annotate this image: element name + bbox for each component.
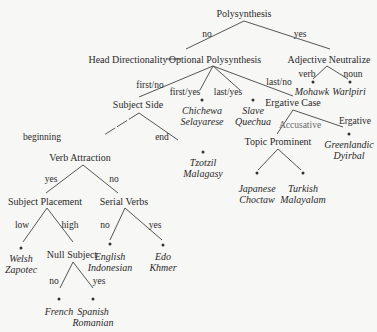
- edge-label-serial-yes: yes: [149, 220, 162, 230]
- edge-label-opt-first-no: first/no: [136, 80, 163, 90]
- node-polysynthesis: Polysynthesis: [216, 8, 271, 19]
- edge-label-serial-no: no: [100, 220, 110, 230]
- leaf-dot: [109, 243, 112, 246]
- leaf-dot: [162, 244, 165, 247]
- leaf-dot: [302, 172, 305, 175]
- leaf-dot: [312, 81, 315, 84]
- leaf-dot: [348, 133, 351, 136]
- edge-label-poly-no: no: [202, 29, 212, 39]
- edge-label-null-no: no: [49, 276, 59, 286]
- edge-label-adj-noun: noun: [344, 69, 363, 79]
- edge-label-opt-first-yes: first/yes: [170, 87, 201, 97]
- edge-label-null-yes: yes: [93, 276, 106, 286]
- leaf-dot: [252, 99, 255, 102]
- node-serial-verbs: Serial Verbs: [100, 196, 148, 207]
- node-head-directionality: Head Directionality: [88, 54, 167, 65]
- leaf-tzotzil-malagasy: TzotzilMalagasy: [183, 157, 222, 179]
- leaf-dot: [349, 81, 352, 84]
- leaf-warlpiri: Warlpiri: [332, 86, 366, 97]
- edge-label-place-low: low: [15, 220, 29, 230]
- leaf-edo-khmer: EdoKhmer: [149, 251, 176, 273]
- leaf-greenlandic-dyirbal: GreenlandicDyirbal: [324, 139, 374, 161]
- leaf-slave-quechua: SlaveQuechua: [235, 105, 271, 127]
- node-subject-placement: Subject Placement: [8, 196, 82, 207]
- leaf-mohawk: Mohawk: [295, 86, 329, 97]
- edge-label-opt-last-no: last/no: [266, 77, 291, 87]
- leaf-french: French: [45, 306, 74, 317]
- edge-label-poly-yes: yes: [294, 29, 307, 39]
- leaf-dot: [92, 298, 95, 301]
- leaf-dot: [256, 172, 259, 175]
- leaf-welsh-zapotec: WelshZapotec: [5, 253, 37, 275]
- leaf-dot: [201, 99, 204, 102]
- leaf-dot: [20, 247, 23, 250]
- edge-label-verb-no: no: [109, 174, 119, 184]
- leaf-japanese-choctaw: JapaneseChoctaw: [238, 183, 275, 205]
- edge-label-adj-verb: verb: [299, 69, 316, 79]
- edge-label-place-high: high: [62, 220, 79, 230]
- node-adjective-neutralize: Adjective Neutralize: [287, 54, 370, 65]
- leaf-english-indonesian: EnglishIndonesian: [88, 251, 132, 273]
- leaf-chichewa-selayarese: ChichewaSelayarese: [181, 105, 224, 127]
- node-topic-prominent: Topic Prominent: [245, 136, 312, 147]
- edge-label-subj-end: end: [155, 132, 169, 142]
- edge-label-opt-last-yes: last/yes: [214, 87, 243, 97]
- node-subject-side: Subject Side: [113, 99, 163, 110]
- edge-label-subj-beginning: beginning: [23, 132, 61, 142]
- leaf-dot: [58, 298, 61, 301]
- node-optional-polysynthesis: Optional Polysynthesis: [169, 54, 262, 65]
- edge-label-verb-yes: yes: [45, 174, 58, 184]
- edge-label-erg-ergative: Ergative: [339, 116, 371, 126]
- node-ergative-case: Ergative Case: [265, 97, 321, 108]
- leaf-turkish-malayalam: TurkishMalayalam: [280, 183, 326, 205]
- edge-label-erg-accusative: Accusative: [279, 120, 321, 130]
- leaf-spanish-romanian: SpanishRomanian: [72, 306, 113, 328]
- node-verb-attraction: Verb Attraction: [49, 152, 110, 163]
- leaf-dot: [202, 151, 205, 154]
